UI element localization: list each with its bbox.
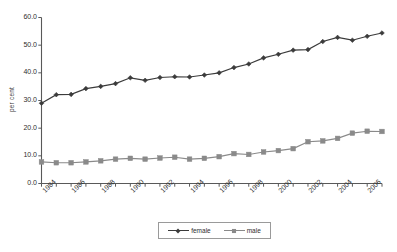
data-point-marker: [276, 148, 281, 153]
data-point-marker: [84, 86, 89, 91]
data-point-marker: [380, 31, 385, 36]
y-tick-label: 60.0: [8, 13, 37, 20]
data-point-marker: [113, 157, 118, 162]
data-point-marker: [350, 131, 355, 136]
data-point-marker: [365, 129, 370, 134]
data-point-marker: [128, 156, 133, 161]
data-point-marker: [261, 56, 266, 61]
data-point-marker: [98, 84, 103, 89]
data-point-marker: [158, 75, 163, 80]
data-point-marker: [276, 52, 281, 57]
data-point-marker: [98, 159, 103, 164]
data-point-marker: [306, 47, 311, 52]
series-female: [39, 31, 384, 106]
data-point-marker: [158, 156, 163, 161]
y-tick-label: 30.0: [8, 96, 37, 103]
data-point-marker: [335, 136, 340, 141]
data-point-marker: [172, 74, 177, 79]
data-point-marker: [217, 154, 222, 159]
data-point-marker: [84, 160, 89, 165]
y-tick-label: 0.0: [8, 179, 37, 186]
data-point-marker: [246, 152, 251, 157]
data-point-marker: [232, 65, 237, 70]
data-point-marker: [261, 150, 266, 155]
data-point-marker: [350, 38, 355, 43]
data-point-marker: [246, 62, 251, 67]
data-point-marker: [320, 39, 325, 44]
series-line-male: [42, 131, 383, 163]
y-tick-label: 50.0: [8, 41, 37, 48]
data-point-marker: [380, 129, 385, 134]
data-point-marker: [202, 73, 207, 78]
data-point-marker: [187, 75, 192, 80]
chart-plot-area: [0, 0, 397, 252]
data-point-marker: [232, 151, 237, 156]
data-point-marker: [291, 146, 296, 151]
data-point-marker: [306, 139, 311, 144]
data-point-marker: [187, 157, 192, 162]
legend-label-male: male: [247, 227, 261, 234]
data-point-marker: [69, 92, 74, 97]
data-point-marker: [128, 76, 133, 81]
data-point-marker: [217, 71, 222, 76]
square-marker-icon: [232, 228, 236, 232]
data-point-marker: [291, 48, 296, 53]
data-point-marker: [172, 155, 177, 160]
data-point-marker: [365, 34, 370, 39]
line-chart: per cent 60.050.040.030.020.010.00.0 198…: [0, 0, 397, 252]
data-point-marker: [54, 92, 59, 97]
legend-item-female: female: [168, 227, 211, 235]
legend-label-female: female: [191, 227, 211, 234]
data-point-marker: [39, 101, 44, 106]
data-point-marker: [113, 81, 118, 86]
data-point-marker: [320, 139, 325, 144]
legend-line-male-icon: [224, 227, 245, 235]
data-point-marker: [143, 78, 148, 83]
data-point-marker: [143, 157, 148, 162]
y-tick-label: 10.0: [8, 151, 37, 158]
diamond-marker-icon: [176, 228, 181, 233]
chart-legend: female male: [158, 222, 271, 239]
series-male: [39, 129, 384, 165]
data-point-marker: [69, 160, 74, 165]
series-line-female: [42, 33, 383, 103]
data-point-marker: [335, 35, 340, 40]
y-tick-label: 20.0: [8, 124, 37, 131]
data-point-marker: [202, 156, 207, 161]
legend-line-female-icon: [168, 227, 189, 235]
legend-item-male: male: [224, 227, 261, 235]
data-point-marker: [54, 160, 59, 165]
y-tick-label: 40.0: [8, 68, 37, 75]
data-point-marker: [39, 160, 44, 165]
